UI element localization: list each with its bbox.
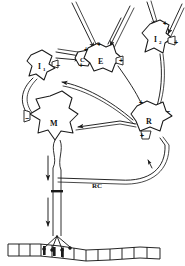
- sign-I2-top: +: [163, 20, 167, 27]
- sign-I1-right: −: [56, 62, 60, 69]
- sign-R-topleft: +: [139, 99, 143, 106]
- sign-I2-right: +: [174, 39, 178, 46]
- sign-E-out-right: +: [119, 57, 123, 64]
- sign-M-left: −: [25, 115, 29, 122]
- axon-node-marker: [51, 190, 63, 192]
- neuron-I1-label: I: [38, 62, 41, 71]
- sign-R-topright: −: [166, 108, 170, 115]
- sign-E-in-left: +: [84, 46, 88, 53]
- sign-E-in-lower: +: [79, 62, 83, 69]
- neuron-E-label: E: [98, 57, 103, 66]
- neuron-M-label: M: [50, 119, 58, 128]
- neuron-R-label: R: [146, 117, 152, 126]
- sign-R-bottom: +: [140, 132, 144, 139]
- neural-circuit-diagram: I 1 C E I 2 R M: [0, 0, 185, 266]
- recurrent-collateral-label: RC: [92, 182, 102, 190]
- sign-E-in-top: +: [97, 41, 101, 48]
- neuron-I2-label: I: [154, 35, 157, 44]
